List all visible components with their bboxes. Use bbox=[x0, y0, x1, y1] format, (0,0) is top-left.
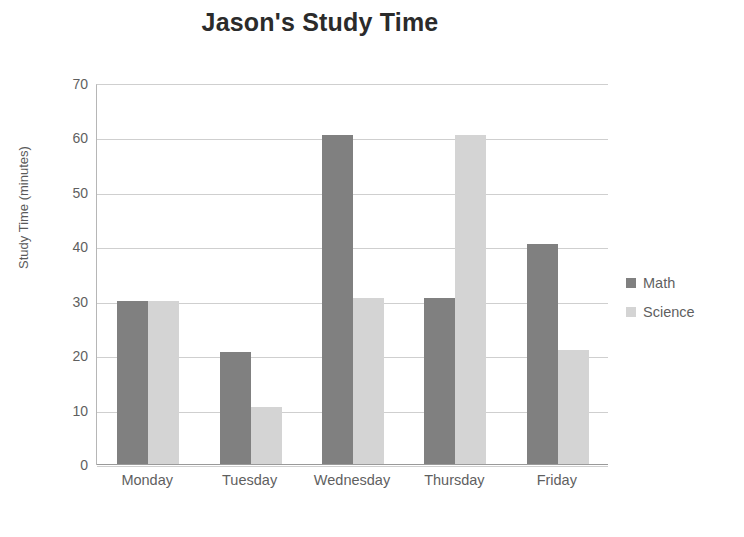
bar bbox=[353, 298, 384, 464]
legend-swatch-icon bbox=[626, 278, 636, 288]
bar bbox=[251, 407, 282, 464]
y-axis-title: Study Time (minutes) bbox=[16, 118, 31, 298]
x-axis-tick-label: Wednesday bbox=[314, 472, 390, 488]
legend-swatch-icon bbox=[626, 307, 636, 317]
x-axis-line bbox=[97, 464, 608, 465]
y-axis-tick-labels: 706050403020100 bbox=[30, 84, 88, 465]
legend-label: Math bbox=[643, 275, 675, 291]
y-axis-tick-label: 0 bbox=[34, 457, 88, 473]
bar bbox=[148, 301, 179, 464]
bar bbox=[117, 301, 148, 464]
legend-label: Science bbox=[643, 304, 695, 320]
chart-legend: MathScience bbox=[626, 268, 736, 326]
x-axis-tick-label: Friday bbox=[537, 472, 577, 488]
plot-area bbox=[96, 84, 608, 465]
legend-item[interactable]: Math bbox=[626, 268, 736, 297]
legend-item[interactable]: Science bbox=[626, 297, 736, 326]
y-axis-tick-label: 40 bbox=[34, 239, 88, 255]
bar bbox=[424, 298, 455, 464]
y-axis-tick-label: 30 bbox=[34, 294, 88, 310]
bar bbox=[558, 350, 589, 464]
bar-chart: Jason's Study Time Study Time (minutes) … bbox=[0, 0, 744, 537]
y-axis-tick-label: 10 bbox=[34, 403, 88, 419]
bar bbox=[220, 352, 251, 464]
bar bbox=[527, 244, 558, 464]
y-axis-tick-label: 60 bbox=[34, 130, 88, 146]
y-axis-tick-label: 70 bbox=[34, 76, 88, 92]
x-axis-tick-labels: MondayTuesdayWednesdayThursdayFriday bbox=[96, 472, 608, 502]
y-axis-tick-label: 20 bbox=[34, 348, 88, 364]
bar bbox=[455, 135, 486, 464]
bar bbox=[322, 135, 353, 464]
y-axis-tick-label: 50 bbox=[34, 185, 88, 201]
gridline bbox=[97, 466, 608, 467]
x-axis-tick-label: Tuesday bbox=[222, 472, 277, 488]
bars-layer bbox=[97, 85, 608, 465]
x-axis-tick-label: Monday bbox=[121, 472, 173, 488]
x-axis-tick-label: Thursday bbox=[424, 472, 484, 488]
chart-title: Jason's Study Time bbox=[0, 8, 640, 37]
